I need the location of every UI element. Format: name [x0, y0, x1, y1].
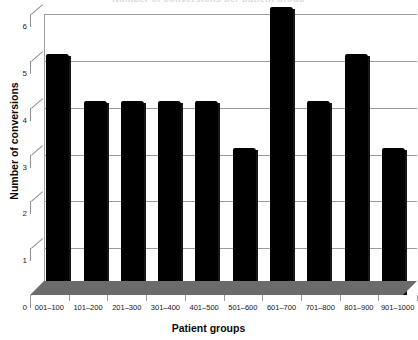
bar	[307, 104, 330, 295]
y-tick-leader	[30, 108, 44, 121]
bar-top-face	[382, 148, 405, 152]
chart-floor	[30, 281, 417, 295]
bar	[233, 151, 256, 296]
bar-side-face	[330, 103, 332, 295]
x-tick-label: 301–400	[146, 303, 185, 313]
bar-top-face	[270, 7, 293, 11]
bar	[195, 104, 218, 295]
plot-area	[44, 14, 417, 295]
x-axis-title: Patient groups	[0, 322, 417, 334]
x-tick-label: 701–800	[301, 303, 340, 313]
bar	[270, 10, 293, 295]
x-tick	[185, 295, 186, 301]
x-axis-tick-labels: 001–100101–200201–300301–400401–500501–6…	[30, 303, 417, 316]
bar-side-face	[144, 103, 146, 295]
bar-side-face	[256, 150, 258, 296]
x-tick	[107, 295, 108, 301]
y-tick-leader	[30, 248, 44, 261]
x-tick	[340, 295, 341, 301]
bar	[345, 57, 368, 295]
x-tick	[301, 295, 302, 301]
bar-side-face	[405, 150, 407, 296]
chart-title: Number of conversions per patient group	[0, 0, 417, 2]
bar	[84, 104, 107, 295]
bar	[158, 104, 181, 295]
x-tick	[69, 295, 70, 301]
gridline	[44, 14, 417, 15]
bar-top-face	[307, 101, 330, 105]
x-tick	[224, 295, 225, 301]
y-tick-leader	[30, 201, 44, 214]
y-tick-label: 1	[11, 257, 27, 265]
x-tick-label: 601–700	[262, 303, 301, 313]
x-axis-ticks	[30, 295, 417, 302]
bar-side-face	[368, 56, 370, 295]
bar-side-face	[218, 103, 220, 295]
x-tick-label: 001–100	[30, 303, 69, 313]
bar-top-face	[121, 101, 144, 105]
bar-side-face	[181, 103, 183, 295]
y-tick-label: 5	[11, 70, 27, 78]
y-tick-label: 4	[11, 117, 27, 125]
bar-side-face	[69, 56, 71, 295]
bar-top-face	[158, 101, 181, 105]
x-tick-label: 401–500	[185, 303, 224, 313]
x-tick-label: 901–1000	[378, 303, 417, 313]
y-tick-leader	[30, 61, 44, 74]
y-tick-leader	[30, 14, 44, 27]
bar	[121, 104, 144, 295]
y-tick-label: 2	[11, 210, 27, 218]
x-tick	[378, 295, 379, 301]
bar-side-face	[293, 9, 295, 295]
bar	[382, 151, 405, 296]
x-tick	[262, 295, 263, 301]
bar-top-face	[84, 101, 107, 105]
bar-top-face	[233, 148, 256, 152]
bar-top-face	[345, 54, 368, 58]
x-tick-label: 101–200	[69, 303, 108, 313]
x-tick	[30, 295, 31, 301]
x-tick-label: 501–600	[224, 303, 263, 313]
x-tick-label: 201–300	[107, 303, 146, 313]
bar-side-face	[107, 103, 109, 295]
bar-top-face	[46, 54, 69, 58]
y-tick-label: 6	[11, 23, 27, 31]
y-tick-label: 3	[11, 164, 27, 172]
x-tick-label: 801–900	[340, 303, 379, 313]
y-tick-label: 0	[11, 304, 27, 312]
y-tick-leader	[30, 155, 44, 168]
y-axis-title: Number of conversions	[8, 51, 20, 231]
x-tick	[146, 295, 147, 301]
bar	[46, 57, 69, 295]
bar-top-face	[195, 101, 218, 105]
